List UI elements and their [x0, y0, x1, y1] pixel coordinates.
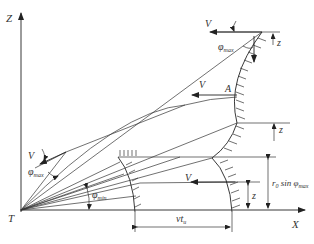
z-top-label: z	[276, 37, 281, 48]
r0-sin-label: r0 sin φmax	[272, 178, 309, 189]
x-axis-label: X	[291, 218, 300, 230]
z-axis: Z	[6, 12, 21, 212]
v-left-label: V	[28, 150, 36, 161]
velocity-left: V φmax	[28, 149, 66, 178]
v-low-label: V	[185, 172, 193, 183]
point-a-label: A	[224, 83, 232, 94]
velocity-top: V φmax z	[205, 18, 281, 62]
rays	[21, 32, 262, 210]
velocity-low: V	[185, 172, 236, 183]
phi-max-top-label: φmax	[218, 41, 234, 53]
velocity-mid: V A z	[192, 79, 283, 141]
v-mid-label: V	[199, 79, 207, 90]
figure: Z X T	[0, 0, 314, 244]
v-top-label: V	[205, 18, 213, 29]
diagram-canvas: Z X T	[0, 0, 314, 244]
r0-sin-dimension: r0 sin φmax	[268, 159, 309, 208]
z-mid-label: z	[278, 124, 283, 135]
z-low-label: z	[251, 190, 256, 201]
vt-dimension: vtu	[135, 212, 232, 232]
lower-left-surface	[118, 150, 141, 212]
lower-right-surface	[212, 158, 240, 212]
origin-label: T	[8, 212, 15, 224]
z-low-dimension: z	[236, 182, 260, 208]
z-axis-label: Z	[6, 12, 13, 24]
vt-label: vtu	[176, 213, 186, 225]
